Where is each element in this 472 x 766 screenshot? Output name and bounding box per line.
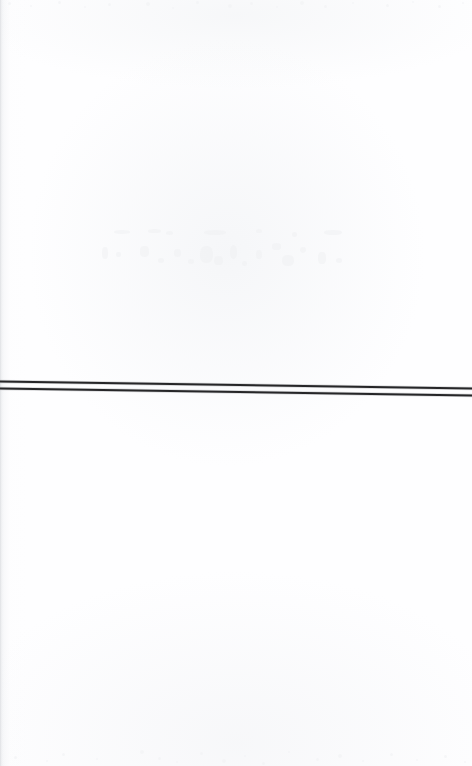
- upper-rule: [0, 382, 472, 389]
- bleed-mark: [300, 247, 306, 253]
- speckle: [316, 758, 319, 761]
- speckle: [338, 754, 342, 758]
- speckle: [58, 1, 61, 4]
- bleed-mark: [282, 255, 294, 266]
- speckle: [158, 757, 161, 760]
- bleed-mark: [256, 229, 262, 233]
- speckle: [146, 2, 150, 6]
- bleed-mark: [292, 232, 297, 237]
- speckle: [462, 2, 464, 4]
- bleed-through-artifact: [96, 228, 364, 280]
- bleed-mark: [200, 246, 213, 263]
- bleed-mark: [158, 258, 164, 263]
- lower-rule: [0, 389, 472, 396]
- speckle: [14, 756, 17, 759]
- bleed-mark: [256, 250, 262, 259]
- speckle: [352, 2, 354, 4]
- speckle: [176, 761, 178, 763]
- speckle: [140, 750, 144, 754]
- speckle: [108, 3, 111, 6]
- scanned-page: [0, 0, 472, 766]
- bleed-mark: [318, 252, 326, 264]
- speckle: [46, 760, 48, 762]
- bleed-mark: [336, 258, 342, 263]
- bleed-mark: [166, 231, 173, 235]
- speckle: [464, 761, 466, 763]
- bleed-mark: [114, 230, 130, 234]
- bleed-mark: [102, 247, 108, 259]
- speckle: [324, 5, 327, 8]
- paper-background: [0, 0, 472, 766]
- speckle: [172, 7, 174, 9]
- horizontal-rules: [0, 0, 472, 766]
- speckle: [250, 2, 253, 5]
- bleed-mark: [272, 243, 281, 250]
- speckle: [416, 759, 418, 761]
- bleed-mark: [230, 245, 237, 259]
- bleed-mark: [148, 229, 161, 233]
- speckle: [390, 753, 393, 756]
- bottom-speckle-band: [0, 740, 472, 766]
- speckle: [8, 2, 11, 5]
- speckle: [228, 4, 232, 8]
- speckle: [288, 751, 290, 753]
- scan-edge-artifact: [0, 0, 4, 766]
- speckle: [244, 755, 246, 757]
- top-speckle-band: [0, 0, 472, 18]
- speckle: [62, 753, 65, 756]
- bleed-mark: [116, 252, 121, 257]
- bleed-mark: [174, 249, 181, 257]
- speckle: [444, 755, 447, 758]
- speckle: [276, 6, 278, 8]
- bleed-mark: [140, 246, 149, 257]
- bleed-mark: [324, 230, 342, 235]
- speckle: [362, 760, 364, 762]
- speckle: [96, 758, 98, 760]
- speckle: [300, 1, 304, 5]
- bleed-mark: [242, 261, 247, 266]
- speckle: [386, 4, 389, 7]
- speckle: [412, 1, 414, 3]
- speckle: [196, 1, 199, 4]
- speckle: [30, 5, 32, 7]
- rules-svg: [0, 0, 472, 766]
- bleed-mark: [204, 230, 226, 235]
- bleed-mark: [188, 259, 194, 264]
- bleed-mark: [214, 256, 223, 265]
- speckle: [438, 5, 441, 8]
- speckle: [200, 752, 203, 755]
- speckle: [262, 762, 265, 765]
- speckle: [84, 6, 86, 8]
- speckle: [222, 759, 226, 763]
